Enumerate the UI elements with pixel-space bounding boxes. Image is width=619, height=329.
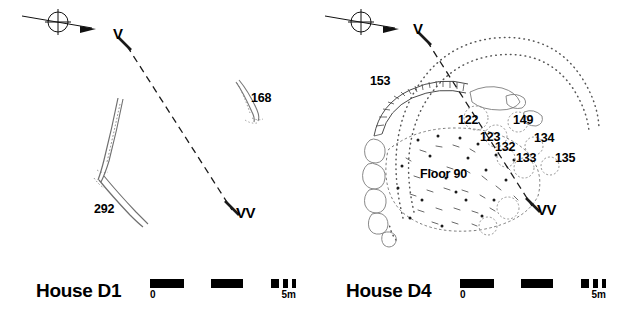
scale-max-label-d1: 5m: [282, 289, 296, 300]
scale-seg: [602, 279, 606, 288]
scale-bar-d4: 0 5m: [460, 279, 606, 302]
feature-label-132: 132: [495, 141, 515, 154]
scale-bar-d1: 0 5m: [150, 279, 296, 302]
section-line-v-vv: [118, 37, 239, 215]
feature-label-153: 153: [370, 75, 390, 88]
scale-max-label-d4: 5m: [592, 289, 606, 300]
footer-d4: House D4 0 5m: [310, 270, 619, 329]
feature-label-122: 122: [458, 114, 478, 127]
scale-seg: [553, 279, 581, 288]
feature-label-134: 134: [534, 132, 554, 145]
scale-seg: [243, 279, 271, 288]
scale-seg: [271, 279, 279, 288]
feature-label-135: 135: [555, 152, 575, 165]
plan-drawing-d1: [0, 0, 309, 270]
feature-label-149: 149: [513, 114, 533, 127]
feature-label-168: 168: [251, 92, 271, 105]
section-marker-vv-d4: VV: [537, 202, 556, 217]
feature-label-floor-90: Floor 90: [420, 168, 467, 181]
plan-panel-d4: V VV 153 122 123 132 133 134 135 149 Flo…: [310, 0, 619, 270]
section-marker-v-d4: V: [413, 21, 423, 36]
house-title-d1: House D1: [36, 280, 121, 302]
scale-zero-label-d1: 0: [150, 289, 156, 300]
plan-drawing-d4: [310, 0, 619, 270]
house-title-d4: House D4: [346, 280, 431, 302]
scale-seg: [521, 279, 553, 288]
figure-footer: House D1 0 5m House D4: [0, 270, 619, 329]
scale-seg: [211, 279, 243, 288]
feature-label-292: 292: [94, 203, 114, 216]
scale-seg: [184, 279, 211, 288]
footer-d1: House D1 0 5m: [0, 270, 309, 329]
scale-seg: [494, 279, 521, 288]
scale-zero-label-d4: 0: [460, 289, 466, 300]
plan-panel-d1: V VV 168 292: [0, 0, 309, 270]
scale-seg: [581, 279, 589, 288]
section-marker-vv-d1: VV: [236, 205, 255, 220]
section-marker-v-d1: V: [113, 26, 123, 41]
scale-labels-d1: 0 5m: [150, 289, 296, 302]
scale-seg: [150, 279, 184, 288]
scale-labels-d4: 0 5m: [460, 289, 606, 302]
feature-label-133: 133: [516, 152, 536, 165]
scale-seg: [460, 279, 494, 288]
scale-seg: [292, 279, 296, 288]
scale-bar-segments-d1: [150, 279, 296, 288]
scale-bar-segments-d4: [460, 279, 606, 288]
north-arrow-crosshair-icon: [22, 9, 96, 35]
north-arrow-crosshair-icon: [325, 9, 399, 35]
